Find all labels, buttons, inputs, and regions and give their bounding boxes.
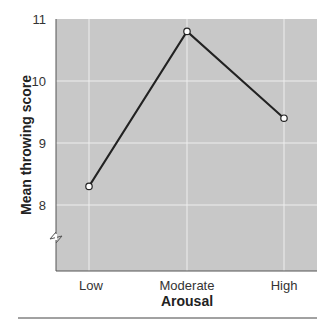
data-point-low [86,183,92,189]
x-axis-title: Arousal [161,293,213,309]
data-point-high [281,115,287,121]
x-tick-high: High [271,278,298,293]
x-tick-low: Low [79,278,103,293]
y-axis-title: Mean throwing score [18,75,34,215]
data-point-moderate [184,28,190,34]
axis-break-gap [55,234,57,240]
y-tick-11: 11 [33,12,47,27]
y-tick-9: 9 [39,136,46,151]
y-tick-8: 8 [39,198,46,213]
x-tick-labels: Low Moderate High [79,278,297,293]
x-tick-moderate: Moderate [160,278,215,293]
line-chart: 8 9 10 11 Low Moderate High Arousal Mean… [0,0,330,321]
